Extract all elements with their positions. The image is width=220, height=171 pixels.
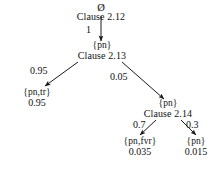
node-leaf-left: {pn,tr} 0.95 <box>6 88 68 108</box>
node-level2-clause-label: Clause 2.14 <box>128 109 208 120</box>
node-leaf-left-probability: 0.95 <box>6 98 68 109</box>
edge-label-level2-to-leaf-mid: 0.7 <box>133 120 146 130</box>
node-leaf-mid-probability: 0.035 <box>109 147 171 158</box>
node-root-clause-label: Clause 2.12 <box>61 12 141 23</box>
edge-level1-to-level2 <box>122 62 164 99</box>
edge-label-level1-to-level2: 0.05 <box>110 72 128 82</box>
edge-label-root-to-level1: 1 <box>86 25 91 35</box>
edge-level1-to-leaf-left <box>45 62 78 86</box>
edge-label-level1-to-leaf-left: 0.95 <box>30 66 48 76</box>
derivation-tree-diagram: Ø Clause 2.12 1 {pn} Clause 2.13 0.95 0.… <box>0 0 220 171</box>
node-level2-clause: Clause 2.14 <box>128 109 208 120</box>
node-root-clause: Clause 2.12 <box>61 12 141 23</box>
edge-label-level2-to-leaf-right: 0.3 <box>186 120 199 130</box>
node-level1-clause-label: Clause 2.13 <box>62 51 142 62</box>
node-leaf-mid: {pn,fvr} 0.035 <box>109 137 171 157</box>
node-leaf-right: {pn} 0.015 <box>173 137 219 157</box>
node-level1-clause: Clause 2.13 <box>62 51 142 62</box>
node-leaf-right-probability: 0.015 <box>173 147 219 158</box>
